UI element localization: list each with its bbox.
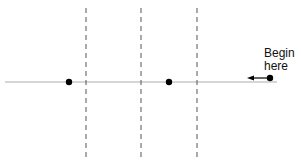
label-line-2: here	[264, 60, 295, 73]
diagram-canvas	[0, 0, 301, 167]
left-arrow-icon	[247, 76, 268, 81]
begin-here-label: Begin here	[264, 47, 295, 73]
dot-2	[166, 79, 172, 85]
dot-1	[66, 79, 72, 85]
